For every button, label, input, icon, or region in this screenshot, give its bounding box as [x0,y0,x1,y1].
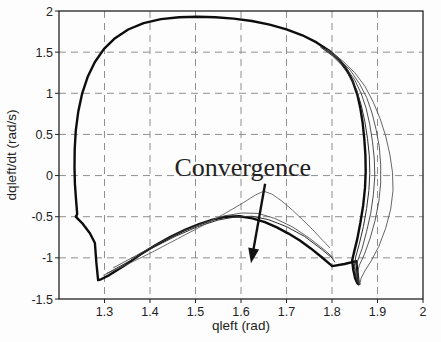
x-tick-label: 1.9 [369,305,386,319]
x-tick-label: 1.6 [232,305,249,319]
x-tick-label: 1.8 [323,305,340,319]
plot-area: 1.31.41.51.61.71.81.92-1.5-1-0.500.511.5… [0,0,441,342]
y-tick-label: 0 [46,169,53,183]
convergence-arrow-head [248,247,259,263]
y-tick-label: -0.5 [31,210,53,224]
series-transient-bottom-outer [104,191,330,275]
series-transient-bottom-1 [107,216,335,273]
x-axis-label: qleft (rad) [212,318,270,333]
x-tick-label: 1.7 [278,305,295,319]
phase-plot-figure: 1.31.41.51.61.71.81.92-1.5-1-0.500.511.5… [0,0,441,342]
x-tick-label: 1.3 [96,305,113,319]
y-tick-label: 1 [46,87,53,101]
plot-generated-content: 1.31.41.51.61.71.81.92-1.5-1-0.500.511.5… [31,5,426,320]
x-tick-label: 1.4 [141,305,158,319]
x-tick-label: 1.5 [187,305,204,319]
annotation-text: Convergence [174,153,311,182]
y-tick-label: 0.5 [36,128,53,142]
y-tick-label: 1.5 [36,46,53,60]
y-tick-label: 2 [46,5,53,19]
series-limit-cycle [75,17,366,284]
x-tick-label: 2 [420,305,427,319]
y-tick-label: -1 [42,251,53,265]
y-axis-label: dqleft/dt (rad/s) [4,110,19,201]
y-tick-label: -1.5 [31,293,53,307]
series-transient-right-2 [323,48,375,284]
